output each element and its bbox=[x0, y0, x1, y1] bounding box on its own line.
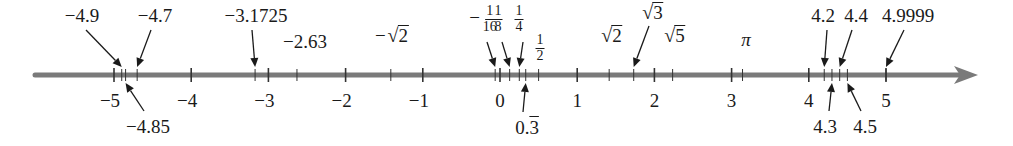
point-label-psqrt2: √2 bbox=[601, 25, 622, 45]
arrow-icon-mfrac4-head bbox=[517, 58, 525, 67]
integer-tick-label: 1 bbox=[572, 91, 582, 110]
point-label-p4-5: 4.5 bbox=[853, 117, 877, 136]
arrow-icon-mfrac8-shaft bbox=[502, 42, 507, 58]
square-root: √5 bbox=[664, 25, 685, 45]
point-label-p4-9999: 4.9999 bbox=[882, 6, 934, 25]
radicand: 2 bbox=[611, 25, 623, 45]
integer-tick-label: −3 bbox=[254, 91, 274, 110]
point-label-psqrt5: √5 bbox=[664, 25, 685, 45]
arrow-icon-mthird-shaft bbox=[523, 92, 525, 112]
integer-tick-label: −2 bbox=[331, 91, 351, 110]
point-label-msqrt2: −√2 bbox=[375, 25, 409, 45]
radicand: 3 bbox=[652, 2, 664, 22]
square-root: √2 bbox=[601, 25, 622, 45]
point-label-p4-3: 4.3 bbox=[813, 117, 837, 136]
numerator: 1 bbox=[536, 33, 545, 49]
denominator: 8 bbox=[495, 20, 502, 35]
integer-tick-label: −5 bbox=[100, 91, 120, 110]
arrow-icon-p4-2-head bbox=[821, 58, 829, 67]
decimal-part: 0. bbox=[515, 117, 529, 138]
minus-sign: − bbox=[469, 7, 480, 28]
arrow-icon-mfrac16-head bbox=[489, 57, 497, 67]
square-root: √3 bbox=[642, 2, 663, 22]
point-label-p4-4: 4.4 bbox=[844, 6, 868, 25]
denominator: 2 bbox=[537, 49, 544, 64]
arrow-icon-psqrt3-head bbox=[633, 57, 640, 67]
fraction: 18 bbox=[494, 4, 503, 34]
numerator: 1 bbox=[494, 4, 503, 20]
point-label-m2-63: −2.63 bbox=[283, 32, 327, 51]
arrow-icon-p4-3-shaft bbox=[829, 92, 831, 111]
point-label-m4-7: −4.7 bbox=[138, 6, 172, 25]
arrow-icon-m4-85-shaft bbox=[131, 91, 144, 111]
arrow-icon-m4-85-head bbox=[126, 83, 134, 93]
arrow-icon-mfrac4-shaft bbox=[521, 42, 523, 58]
arrow-icon-m4-7-head bbox=[137, 57, 144, 67]
point-label-mfrac2: 12 bbox=[536, 33, 545, 63]
arrow-icon-p4-2-shaft bbox=[825, 30, 827, 58]
arrow-icon-mthird-head bbox=[521, 83, 529, 92]
numerator: 1 bbox=[515, 4, 524, 20]
point-label-mfrac4: 14 bbox=[515, 4, 524, 34]
integer-tick-label: 2 bbox=[650, 91, 660, 110]
fraction: 12 bbox=[536, 33, 545, 63]
integer-tick-label: 3 bbox=[727, 91, 737, 110]
minus-sign: − bbox=[375, 25, 386, 46]
square-root: √2 bbox=[388, 25, 409, 45]
point-label-mfrac8: 18 bbox=[494, 4, 503, 34]
number-line-diagram: −5−4−3−2−1012345−4.9−4.85−4.7−3.1725−2.6… bbox=[0, 0, 1013, 146]
integer-tick-label: 4 bbox=[804, 91, 814, 110]
point-label-p4-2: 4.2 bbox=[811, 6, 835, 25]
integer-tick-label: 5 bbox=[881, 91, 891, 110]
arrow-icon-m4-7-shaft bbox=[140, 30, 151, 59]
point-label-psqrt3: √3 bbox=[642, 2, 663, 22]
arrow-icon-p4-5-shaft bbox=[851, 91, 861, 111]
point-label-ppi: π bbox=[741, 30, 751, 49]
arrow-icon-p4-3-head bbox=[827, 83, 835, 92]
point-label-m4-85: −4.85 bbox=[126, 117, 170, 136]
arrow-icon-mfrac16-shaft bbox=[487, 42, 492, 58]
arrow-icon-psqrt3-shaft bbox=[637, 26, 649, 59]
point-label-m4-9: −4.9 bbox=[65, 6, 99, 25]
point-label-m3-1725: −3.1725 bbox=[225, 6, 288, 25]
point-label-mthird: 0.3 bbox=[515, 118, 539, 137]
integer-tick-label: −4 bbox=[177, 91, 197, 110]
integer-tick-label: −1 bbox=[409, 91, 429, 110]
arrow-icon-p4-4-head bbox=[839, 57, 847, 67]
arrow-icon-p4-4-shaft bbox=[843, 30, 852, 58]
fraction: 14 bbox=[515, 4, 524, 34]
radicand: 2 bbox=[398, 25, 410, 45]
integer-tick-label: 0 bbox=[495, 91, 505, 110]
radicand: 5 bbox=[674, 25, 686, 45]
repeating-digit: 3 bbox=[529, 117, 539, 138]
arrow-icon-m3-1725-head bbox=[250, 58, 258, 67]
arrow-icon-m4-9-shaft bbox=[86, 30, 115, 61]
denominator: 4 bbox=[516, 20, 523, 35]
arrow-icon-m3-1725-shaft bbox=[252, 30, 254, 58]
arrow-icon-mfrac8-head bbox=[503, 57, 511, 67]
arrow-icon-p4-9999-shaft bbox=[890, 30, 904, 59]
